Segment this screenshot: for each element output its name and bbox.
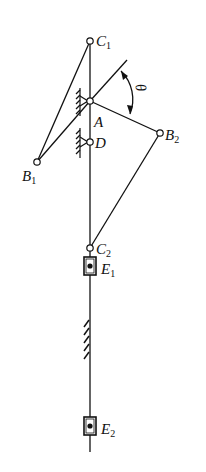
crank-reference-line	[90, 60, 127, 101]
joint-c2	[87, 245, 93, 251]
label-b1: B1	[22, 168, 36, 186]
joint-b1	[34, 159, 40, 165]
label-theta: θ	[132, 82, 149, 93]
joint-b2	[157, 130, 163, 136]
label-e1: E1	[100, 261, 115, 279]
joint-a	[87, 98, 93, 104]
label-d: D	[94, 135, 106, 151]
guide-hatching	[84, 320, 89, 359]
joint-c1	[87, 38, 93, 44]
label-e2: E2	[100, 421, 115, 439]
ground-support-d	[76, 128, 88, 158]
mechanism-diagram: C1 A D B1 B2 C2 E1 E2 θ	[0, 0, 206, 472]
label-a: A	[93, 114, 104, 130]
joint-d	[87, 139, 93, 145]
slider-e2	[84, 417, 96, 435]
label-b2: B2	[165, 127, 179, 145]
link-c1-b1	[37, 41, 90, 162]
slider-e1	[84, 257, 96, 275]
label-c2: C2	[96, 241, 111, 259]
label-c1: C1	[96, 33, 111, 51]
ground-support-a	[76, 88, 88, 116]
crank-a-b1	[37, 101, 90, 162]
